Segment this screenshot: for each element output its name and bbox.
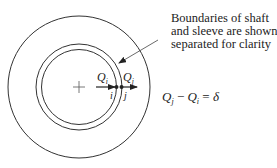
eq-term-b: Q (187, 89, 196, 104)
annotation-leader-arrow (119, 40, 158, 63)
flow-out-subscript: j (132, 77, 134, 86)
node-i-dot (115, 85, 119, 89)
flow-in-symbol: Q (97, 70, 106, 84)
flow-out-symbol: Q (123, 70, 132, 84)
flow-in-subscript: i (106, 77, 108, 86)
equation: Qj − Qi = δ (162, 89, 219, 106)
eq-equals: = (199, 89, 213, 104)
annotation-text: Boundaries of shaft and sleeve are shown… (171, 12, 277, 51)
eq-rhs: δ (213, 89, 219, 104)
eq-term-a: Q (162, 89, 171, 104)
flow-out-label: Qj (123, 70, 134, 86)
flow-in-label: Qi (97, 70, 108, 86)
annotation-line-3: separated for clarity (171, 38, 277, 51)
node-j-label: j (124, 90, 127, 101)
node-i-label: i (110, 90, 113, 101)
eq-minus: − (174, 89, 188, 104)
diagram-canvas: Boundaries of shaft and sleeve are shown… (0, 0, 277, 168)
center-cross-icon (73, 81, 85, 93)
